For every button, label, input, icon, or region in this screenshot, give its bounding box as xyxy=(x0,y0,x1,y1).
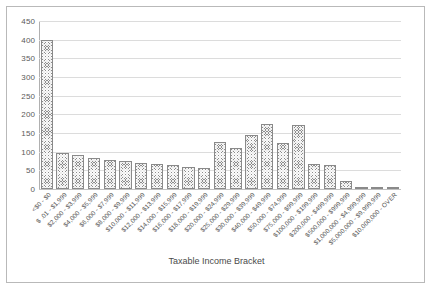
bar xyxy=(214,142,226,189)
x-axis-tick-slot: $10,000,000 - OVER xyxy=(385,190,401,266)
bar xyxy=(261,124,273,189)
y-axis-tick: 0 xyxy=(30,185,35,194)
bar-slot xyxy=(275,21,291,189)
y-axis-tick: 100 xyxy=(21,147,35,156)
plot-area xyxy=(39,21,401,189)
y-axis-tick: 150 xyxy=(21,129,35,138)
y-axis-tick: 250 xyxy=(21,91,35,100)
bar-slot xyxy=(149,21,165,189)
bar-slot xyxy=(181,21,197,189)
bar xyxy=(340,181,352,189)
bar xyxy=(72,155,84,189)
bar xyxy=(167,165,179,189)
bar xyxy=(41,40,53,189)
bar xyxy=(245,135,257,189)
bar xyxy=(151,164,163,189)
bar xyxy=(277,143,289,189)
chart-container: 450400350300250200150100500 <$0 - $0$ .0… xyxy=(6,6,425,283)
bar-slot xyxy=(228,21,244,189)
bar-slot xyxy=(354,21,370,189)
bar xyxy=(135,163,147,189)
y-axis-tick: 50 xyxy=(26,166,35,175)
x-axis-tick-labels: <$0 - $0$ .01 - $1,999$2,000 - $3,999$4,… xyxy=(39,190,401,266)
bar-slot xyxy=(338,21,354,189)
bar xyxy=(387,187,399,189)
y-axis-tick: 200 xyxy=(21,110,35,119)
bar xyxy=(324,165,336,189)
bar-slot xyxy=(55,21,71,189)
bar xyxy=(292,125,304,189)
bar-slot xyxy=(306,21,322,189)
bar-slot xyxy=(165,21,181,189)
y-axis-tick: 400 xyxy=(21,35,35,44)
y-axis-tick-labels: 450400350300250200150100500 xyxy=(7,21,35,189)
bar xyxy=(104,160,116,189)
bar-slot xyxy=(291,21,307,189)
bar xyxy=(182,167,194,189)
bar-slot xyxy=(212,21,228,189)
bar-slot xyxy=(244,21,260,189)
bar-slot xyxy=(385,21,401,189)
bar-slot xyxy=(39,21,55,189)
bar-slot xyxy=(86,21,102,189)
bar xyxy=(119,161,131,189)
bar-slot xyxy=(70,21,86,189)
bar-slot xyxy=(196,21,212,189)
y-axis-tick: 350 xyxy=(21,54,35,63)
bar-series xyxy=(39,21,401,189)
bar-slot xyxy=(369,21,385,189)
bar xyxy=(56,153,68,189)
bar xyxy=(198,168,210,189)
bar xyxy=(355,187,367,189)
y-axis-tick: 450 xyxy=(21,17,35,26)
x-axis-title: Taxable Income Bracket xyxy=(7,256,426,266)
bar-slot xyxy=(133,21,149,189)
bar xyxy=(88,158,100,189)
bar-slot xyxy=(118,21,134,189)
bar xyxy=(308,164,320,189)
y-axis-tick: 300 xyxy=(21,73,35,82)
bar-slot xyxy=(322,21,338,189)
bar-slot xyxy=(259,21,275,189)
bar xyxy=(371,187,383,189)
bar-slot xyxy=(102,21,118,189)
bar xyxy=(230,148,242,189)
